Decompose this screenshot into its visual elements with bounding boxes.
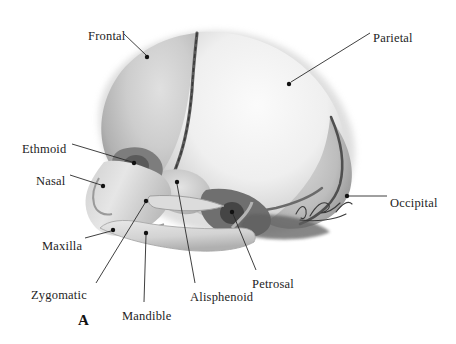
- label-ethmoid: Ethmoid: [22, 143, 66, 156]
- label-dot-parietal: [287, 82, 291, 86]
- label-maxilla: Maxilla: [42, 240, 82, 253]
- label-frontal: Frontal: [88, 30, 126, 43]
- label-occipital: Occipital: [390, 197, 438, 210]
- label-dot-occipital: [345, 194, 349, 198]
- label-dot-mandible: [144, 231, 148, 235]
- label-petrosal: Petrosal: [252, 278, 294, 291]
- label-dot-frontal: [145, 55, 149, 59]
- label-dot-nasal: [101, 184, 105, 188]
- label-nasal: Nasal: [36, 175, 65, 188]
- label-dot-zygomatic: [144, 199, 148, 203]
- panel-letter: A: [78, 312, 89, 329]
- label-parietal: Parietal: [373, 32, 413, 45]
- label-dot-ethmoid: [132, 161, 136, 165]
- label-mandible: Mandible: [122, 310, 172, 323]
- label-dot-petrosal: [230, 210, 234, 214]
- label-dot-alisphenoid: [175, 180, 179, 184]
- label-alisphenoid: Alisphenoid: [190, 291, 253, 304]
- label-zygomatic: Zygomatic: [31, 289, 87, 302]
- label-dot-maxilla: [111, 228, 115, 232]
